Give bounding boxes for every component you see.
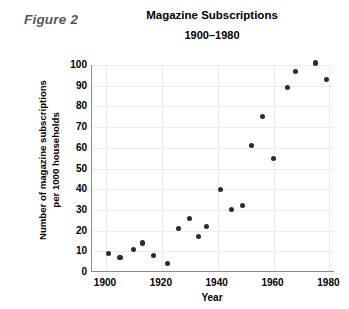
y-tick-label: 90 — [57, 81, 87, 91]
data-point — [106, 251, 111, 256]
y-tick-label: 80 — [57, 101, 87, 111]
y-tick-label: 10 — [57, 246, 87, 256]
x-tick-label: 1940 — [194, 277, 240, 288]
data-point — [165, 261, 170, 266]
x-tick-label: 1920 — [138, 277, 184, 288]
data-point — [313, 60, 318, 65]
gridline-horizontal — [92, 86, 334, 87]
chart-title: Magazine Subscriptions — [90, 9, 334, 21]
gridline-horizontal — [92, 127, 334, 128]
figure-container: Figure 2 Magazine Subscriptions 1900–198… — [0, 0, 349, 309]
gridline-vertical — [274, 65, 275, 271]
gridline-horizontal — [92, 210, 334, 211]
gridline-vertical — [162, 65, 163, 271]
x-axis-title: Year — [91, 292, 333, 303]
data-point — [240, 203, 245, 208]
data-point — [196, 234, 201, 239]
y-tick-label: 20 — [57, 226, 87, 236]
data-point — [204, 224, 209, 229]
gridline-horizontal — [92, 148, 334, 149]
data-point — [187, 216, 192, 221]
data-point — [260, 114, 265, 119]
y-axis-title-line-1: Number of magazine subscriptions — [37, 60, 50, 260]
y-tick-label: 60 — [57, 143, 87, 153]
gridline-horizontal — [92, 251, 334, 252]
gridline-vertical — [329, 65, 330, 271]
gridline-horizontal — [92, 169, 334, 170]
data-point — [151, 253, 156, 258]
data-point — [229, 207, 234, 212]
x-tick-label: 1980 — [305, 277, 349, 288]
data-point — [218, 187, 223, 192]
gridline-horizontal — [92, 106, 334, 107]
y-axis-tick-labels: 0102030405060708090100 — [55, 65, 87, 271]
data-point — [285, 85, 290, 90]
figure-label: Figure 2 — [24, 12, 78, 27]
y-tick-label: 40 — [57, 184, 87, 194]
y-tick-label: 50 — [57, 164, 87, 174]
gridline-vertical — [218, 65, 219, 271]
y-tick-label: 70 — [57, 122, 87, 132]
chart-subtitle: 1900–1980 — [90, 29, 334, 41]
x-tick-label: 1900 — [82, 277, 128, 288]
gridline-horizontal — [92, 189, 334, 190]
x-axis-tick-labels: 19001920194019601980 — [91, 277, 333, 291]
y-tick-label: 100 — [57, 60, 87, 70]
data-point — [293, 69, 298, 74]
gridline-horizontal — [92, 65, 334, 66]
data-point — [271, 156, 276, 161]
gridline-vertical — [106, 65, 107, 271]
data-point — [140, 240, 145, 245]
gridline-horizontal — [92, 231, 334, 232]
data-point — [117, 255, 122, 260]
plot-area — [91, 65, 334, 272]
y-tick-label: 30 — [57, 205, 87, 215]
y-tick-label: 0 — [57, 267, 87, 277]
x-tick-label: 1960 — [250, 277, 296, 288]
